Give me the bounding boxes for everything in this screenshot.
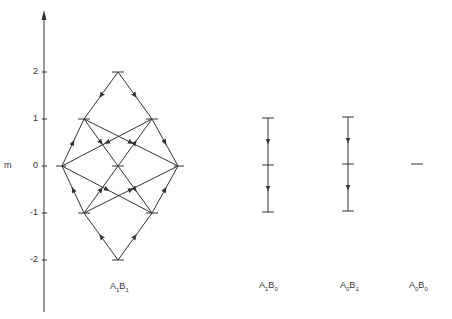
diagram-label-a1b1: A1B1: [110, 281, 129, 293]
diagram-a1b1: [56, 72, 184, 260]
m-axis: [42, 10, 48, 312]
diagram-a1b0: [262, 118, 274, 212]
diagram-label-a0b1: A0B1: [340, 280, 359, 292]
tick-label: 0: [22, 160, 38, 170]
tick-label: -1: [22, 207, 38, 217]
diagram-a0b1: [342, 117, 354, 211]
tick-label: 1: [22, 113, 38, 123]
diagram-label-a1b0: A1B0: [259, 280, 278, 292]
transition-diagram: [0, 0, 452, 319]
axis-label: m: [4, 160, 12, 170]
tick-label: 2: [22, 66, 38, 76]
diagram-canvas: m 2 1 0 -1 -2 A1B1 A1B0 A0B1 A0B0: [0, 0, 452, 319]
diagram-label-a0b0: A0B0: [409, 280, 428, 292]
tick-label: -2: [22, 254, 38, 264]
